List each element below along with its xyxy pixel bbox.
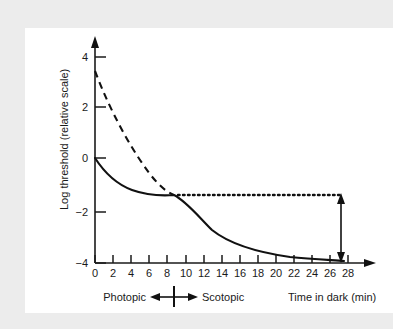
cone-branch-dashed-curve (95, 71, 174, 195)
y-tick-label-4: 4 (82, 51, 88, 63)
x-tick-label-14: 14 (216, 267, 228, 279)
y-axis-title: Log threshold (relative scale) (58, 69, 70, 210)
x-axis-arrowhead (364, 259, 376, 267)
chart-svg: 4 2 0 −2 −4 (0, 0, 393, 329)
y-tick-label-0: 0 (82, 152, 88, 164)
figure-page-background: 4 2 0 −2 −4 (0, 0, 393, 329)
x-axis-title: Time in dark (min) (288, 291, 376, 303)
dark-adaptation-solid-curve (95, 158, 344, 261)
x-tick-label-26: 26 (324, 267, 336, 279)
x-tick-label-0: 0 (92, 267, 98, 279)
scotopic-arrow-head (188, 293, 198, 301)
y-tick-label-neg4: −4 (75, 257, 88, 269)
photopic-label: Photopic (103, 291, 146, 303)
x-tick-label-20: 20 (270, 267, 282, 279)
x-tick-label-22: 22 (288, 267, 300, 279)
dark-adaptation-chart: 4 2 0 −2 −4 (0, 0, 393, 329)
x-tick-labels: 0 2 4 6 8 10 12 14 16 18 20 22 24 26 28 (92, 267, 354, 279)
sensitivity-improvement-arrow (337, 193, 345, 263)
x-tick-label-10: 10 (180, 267, 192, 279)
y-axis-group (91, 36, 99, 263)
x-tick-label-28: 28 (342, 267, 354, 279)
scotopic-label: Scotopic (202, 291, 245, 303)
x-tick-label-12: 12 (198, 267, 210, 279)
y-axis-arrowhead (91, 36, 99, 48)
x-tick-label-4: 4 (128, 267, 134, 279)
x-tick-label-8: 8 (164, 267, 170, 279)
x-tick-label-18: 18 (252, 267, 264, 279)
photopic-arrow-head (150, 293, 160, 301)
y-tick-labels: 4 2 0 −2 −4 (75, 51, 88, 269)
x-tick-label-16: 16 (234, 267, 246, 279)
y-tick-label-neg2: −2 (75, 206, 88, 218)
x-tick-label-6: 6 (146, 267, 152, 279)
x-tick-label-24: 24 (306, 267, 318, 279)
y-tick-label-2: 2 (82, 101, 88, 113)
photopic-scotopic-divider-group (150, 286, 198, 307)
x-tick-label-2: 2 (110, 267, 116, 279)
